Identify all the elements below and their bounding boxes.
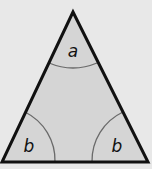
triangle-diagram: a b b [0,0,152,169]
left-angle-label: b [24,136,35,156]
apex-angle-label: a [68,41,78,61]
right-angle-label: b [112,136,123,156]
